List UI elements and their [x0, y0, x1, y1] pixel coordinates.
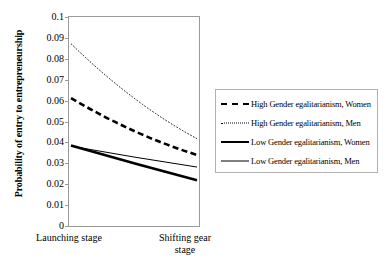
- chart-figure: Probability of entry to entrepreneurship…: [0, 0, 389, 272]
- legend-item: Low Gender egalitarianism, Women: [216, 132, 377, 151]
- legend-item-label: High Gender egalitarianism, Men: [251, 118, 361, 128]
- plot-area: [68, 16, 200, 227]
- legend-line-sample-icon: [221, 156, 249, 166]
- x-axis-label-line2: stage: [148, 244, 222, 256]
- y-tick-label: 0: [26, 221, 64, 231]
- legend-item: High Gender egalitarianism, Women: [216, 94, 377, 113]
- y-tick-label: 0.1: [26, 12, 64, 22]
- y-tick-label: 0.06: [26, 96, 64, 106]
- y-tick-label: 0.08: [26, 54, 64, 64]
- y-tick-label: 0.07: [26, 75, 64, 85]
- y-tick-label: 0.01: [26, 200, 64, 210]
- chart-legend: High Gender egalitarianism, WomenHigh Ge…: [215, 89, 378, 173]
- y-tick-mark: [65, 142, 69, 143]
- series-line: [71, 146, 197, 181]
- y-tick-label: 0.02: [26, 179, 64, 189]
- y-tick-mark: [65, 226, 69, 227]
- legend-item-label: High Gender egalitarianism, Women: [251, 99, 371, 109]
- y-tick-mark: [65, 59, 69, 60]
- legend-item-label: Low Gender egalitarianism, Men: [251, 156, 359, 166]
- y-axis-title: Probability of entry to entrepreneurship: [13, 4, 24, 224]
- legend-item: Low Gender egalitarianism, Men: [216, 151, 377, 170]
- series-line: [71, 98, 197, 155]
- x-axis-label-shifting-gear-stage: Shifting gear stage: [148, 232, 222, 256]
- x-axis-label-launching-stage: Launching stage: [14, 232, 124, 244]
- series-lines: [69, 17, 199, 226]
- y-tick-label: 0.03: [26, 158, 64, 168]
- y-tick-mark: [65, 80, 69, 81]
- y-tick-mark: [65, 184, 69, 185]
- y-tick-label: 0.09: [26, 33, 64, 43]
- y-tick-mark: [65, 38, 69, 39]
- legend-line-sample-icon: [221, 137, 249, 147]
- legend-item-label: Low Gender egalitarianism, Women: [251, 137, 370, 147]
- legend-line-sample-icon: [221, 99, 249, 109]
- y-tick-mark: [65, 163, 69, 164]
- y-tick-mark: [65, 205, 69, 206]
- legend-item: High Gender egalitarianism, Men: [216, 113, 377, 132]
- y-tick-mark: [65, 122, 69, 123]
- y-tick-mark: [65, 101, 69, 102]
- y-tick-mark: [65, 17, 69, 18]
- series-line: [71, 44, 197, 139]
- y-tick-label: 0.05: [26, 117, 64, 127]
- x-axis-label-line1: Shifting gear: [148, 232, 222, 244]
- y-tick-label: 0.04: [26, 137, 64, 147]
- legend-line-sample-icon: [221, 118, 249, 128]
